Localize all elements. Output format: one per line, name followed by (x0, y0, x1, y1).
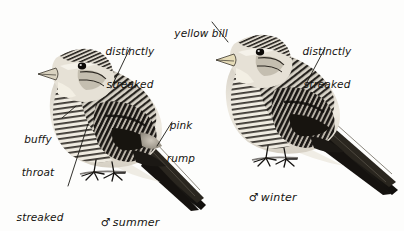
annotation-line: yellow bill (170, 28, 232, 39)
leader-streaked-black-on-buff (68, 124, 88, 186)
male-symbol-icon: ♂ (101, 216, 113, 229)
annotation-line: pink (161, 120, 201, 131)
annotation-line: rump (161, 153, 201, 164)
annotation-streaked-black-on-buff: streaked black on buff (11, 190, 69, 231)
annotation-yellow-bill: yellow bill (170, 6, 232, 61)
annotation-line: streaked (97, 79, 163, 90)
annotation-buffy-throat: buffy throat (14, 112, 62, 200)
field-guide-plate: distinctly streaked yellow bill distinct… (0, 0, 404, 231)
annotation-line: streaked (294, 79, 360, 90)
caption-male-winter: ♂winter (234, 178, 297, 217)
annotation-pink-rump: pink rump (161, 98, 201, 186)
leader-buffy-throat (62, 106, 76, 118)
annotation-line: distinctly (97, 46, 163, 57)
annotation-line: distinctly (294, 46, 360, 57)
annotation-distinctly-streaked-left: distinctly streaked (97, 24, 163, 112)
annotation-distinctly-streaked-right: distinctly streaked (294, 24, 360, 112)
annotation-line: throat (14, 167, 62, 178)
annotation-line: streaked (11, 212, 69, 223)
male-symbol-icon: ♂ (249, 191, 261, 204)
caption-text: winter (261, 191, 297, 204)
annotation-line: buffy (14, 134, 62, 145)
caption-male-summer: ♂summer (86, 203, 159, 231)
caption-text: summer (113, 216, 160, 229)
